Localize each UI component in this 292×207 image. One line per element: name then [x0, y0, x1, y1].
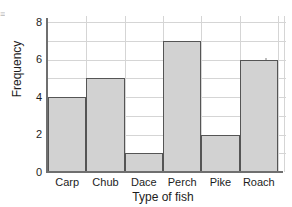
bar-series — [48, 22, 278, 172]
gridline-x-6 — [278, 16, 279, 172]
x-tick-label-roach: Roach — [240, 176, 278, 188]
bar-cell-pike — [201, 22, 239, 172]
x-tick-label-perch: Perch — [163, 176, 201, 188]
bar-cell-dace — [125, 22, 163, 172]
x-axis-line — [46, 171, 283, 173]
y-axis-line — [46, 18, 48, 173]
y-tick-label-0: 0 — [24, 166, 42, 178]
y-axis-title: Frequency — [10, 14, 24, 124]
scan-edge-artifact: ≡ — [0, 10, 5, 26]
x-tick-label-carp: Carp — [48, 176, 86, 188]
y-tick-label-4: 4 — [24, 91, 42, 103]
bar-cell-chub — [86, 22, 124, 172]
bar-carp[interactable] — [48, 97, 86, 172]
bar-chub[interactable] — [86, 78, 124, 172]
gridline-x-edge — [284, 16, 285, 172]
y-tick-label-8: 8 — [24, 16, 42, 28]
bar-cell-carp — [48, 22, 86, 172]
bar-pike[interactable] — [201, 135, 239, 173]
x-axis-title: Type of fish — [48, 190, 278, 204]
bar-cell-perch — [163, 22, 201, 172]
x-tick-label-pike: Pike — [201, 176, 239, 188]
x-tick-labels: Carp Chub Dace Perch Pike Roach — [48, 176, 278, 188]
bar-dace[interactable] — [125, 153, 163, 172]
plot-area — [48, 22, 278, 172]
scan-speck — [265, 58, 267, 60]
x-tick-label-dace: Dace — [125, 176, 163, 188]
y-tick-label-6: 6 — [24, 53, 42, 65]
bar-cell-roach — [240, 22, 278, 172]
bar-roach[interactable] — [240, 60, 278, 173]
bar-perch[interactable] — [163, 41, 201, 172]
bar-chart: ≡ Frequency 8 6 4 2 0 — [0, 0, 292, 207]
x-tick-label-chub: Chub — [86, 176, 124, 188]
y-tick-label-2: 2 — [24, 128, 42, 140]
